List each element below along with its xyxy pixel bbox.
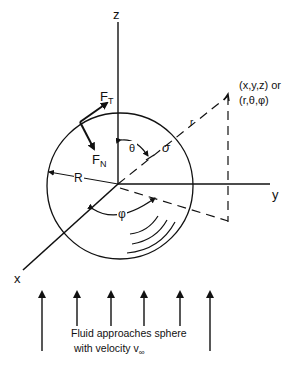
tangential-force-arrow <box>80 103 107 122</box>
radius-label: R <box>74 171 83 185</box>
x-axis-label: x <box>14 271 21 286</box>
theta-label: θ <box>129 142 135 154</box>
position-vector-label: r <box>190 117 194 128</box>
z-axis-label: z <box>113 7 120 22</box>
sphere-outline <box>47 113 193 259</box>
spherical-coordinates-label: (r,θ,φ) <box>239 94 269 106</box>
flow-caption-line1: Fluid approaches sphere <box>71 327 187 339</box>
tangential-force-label: FT <box>100 89 114 106</box>
flow-caption-line2: with velocity v∞ <box>73 342 145 357</box>
normal-force-arrow <box>80 122 94 149</box>
horizontal-projection-line <box>120 188 228 221</box>
phi-label: φ <box>118 207 126 221</box>
normal-force-label: FN <box>92 152 106 169</box>
stress-symbol: σ <box>162 140 171 155</box>
point-marker-icon <box>224 94 229 101</box>
y-axis-label: y <box>272 187 279 202</box>
cartesian-coordinates-label: (x,y,z) or <box>239 79 281 91</box>
sphere-shading-arcs <box>127 216 175 253</box>
position-vector-r <box>118 96 228 184</box>
sphere-flow-diagram: z y x R FT FN r σ θ φ (x,y,z) or (r,θ,φ) <box>0 0 301 366</box>
